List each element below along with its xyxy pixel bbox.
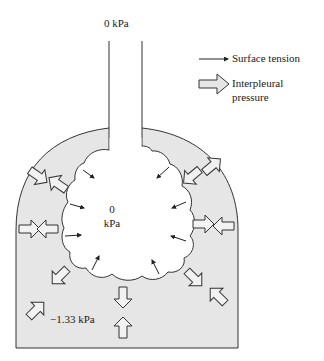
alveolar-pressure-unit: kPa: [100, 217, 124, 230]
alveolar-pressure-value: 0: [107, 203, 117, 216]
legend-surface-tension-label: Surface tension: [232, 52, 300, 65]
airway-pressure-label: 0 kPa: [104, 17, 129, 30]
legend-hollow-arrow-icon: [199, 74, 229, 94]
airway-tube: [109, 40, 142, 140]
legend-interpleural-label-line1: Interpleural: [232, 77, 283, 90]
pleural-pressure-label: −1.33 kPa: [50, 313, 95, 326]
legend-interpleural-label-line2: pressure: [232, 91, 269, 104]
alveolus: [62, 146, 195, 280]
